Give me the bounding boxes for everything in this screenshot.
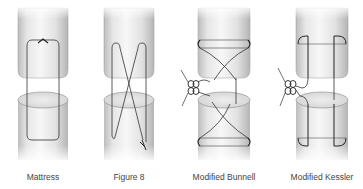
label-modified-kessler: Modified Kessler: [291, 172, 354, 182]
mattress-suture-illustration: [0, 0, 90, 170]
modified-kessler-suture-illustration: [272, 0, 363, 170]
panel-modified-kessler: Modified Kessler: [272, 0, 363, 189]
label-mattress: Mattress: [27, 172, 60, 182]
label-modified-bunnell: Modified Bunnell: [193, 172, 256, 182]
panel-figure8: Figure 8: [90, 0, 180, 189]
panel-mattress: Mattress: [0, 0, 90, 189]
label-figure8: Figure 8: [113, 172, 144, 182]
panel-modified-bunnell: Modified Bunnell: [180, 0, 272, 189]
modified-bunnell-suture-illustration: [180, 0, 272, 170]
figure8-suture-illustration: [90, 0, 180, 170]
